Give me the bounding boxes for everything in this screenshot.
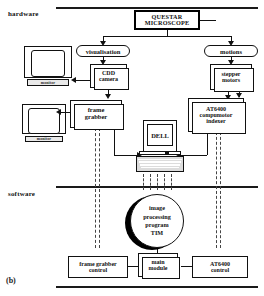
questar-line-2: MICROSCOPE [145, 19, 190, 26]
stepper-line-2: motors [222, 77, 240, 83]
link-main-at6400control [181, 266, 192, 267]
node-motions: motions [204, 45, 258, 57]
bus-framegrabber-control-b [99, 128, 100, 248]
cdd-line-1: CDD [102, 70, 115, 76]
bus-framegrabber-control-a [95, 128, 96, 248]
node-frame-grabber: frame grabber [70, 100, 122, 128]
top-divider-rule [56, 7, 258, 9]
module-at6400-control: AT6400 control [192, 256, 248, 278]
node-questar-microscope: QUESTAR MICROSCOPE [134, 10, 200, 30]
laptop-port-icon [165, 152, 169, 154]
questar-bus [103, 36, 231, 37]
monitor-label: monitor [27, 79, 69, 86]
program-line-2: processing [143, 213, 171, 220]
node-stepper-motors: stepper motors [210, 64, 252, 90]
at6400-line-3: indexer [206, 118, 225, 124]
main-line-2: module [148, 265, 167, 271]
node-image-processing-program: image processing program TIM [125, 196, 179, 250]
node-at6400-indexer: AT6400 compumotor indexer [188, 98, 244, 132]
questar-right-stub [200, 20, 216, 21]
panel-label: (b) [6, 276, 16, 285]
bus-dell-c [157, 174, 158, 190]
figure-diagram: hardware QUESTAR MICROSCOPE visualisatio… [0, 0, 264, 296]
cdd-line-2: camera [99, 76, 118, 82]
main-line-1: main [151, 259, 164, 265]
laptop-hinge [139, 151, 181, 155]
laptop-screen-label: DELL [147, 124, 173, 146]
section-label-software: software [8, 190, 35, 198]
program-line-3: program [145, 221, 168, 228]
framegrabber-to-monitor-line [60, 112, 70, 113]
monitor-label: monitor [25, 136, 64, 142]
module-main: main module [138, 253, 178, 277]
module-frame-grabber-control: frame grabber control [68, 256, 128, 278]
monitor-visualisation: monitor [24, 46, 72, 86]
at6400-control-line-2: control [211, 267, 229, 273]
program-line-4: TIM [151, 229, 163, 236]
monitor-screen [31, 50, 66, 77]
fg-control-line-2: control [89, 267, 107, 273]
circle-body: image processing program TIM [130, 194, 184, 248]
framegrabber-line-2: grabber [85, 113, 107, 120]
arrow-cdd-to-framegrabber [105, 94, 111, 99]
laptop-keyboard [136, 156, 184, 172]
bus-dell-e [171, 174, 172, 190]
stepper-line-1: stepper [222, 71, 241, 77]
framegrabber-down [114, 128, 115, 155]
fg-control-line-1: frame grabber [79, 261, 117, 267]
node-visualisation: visualisation [76, 45, 130, 57]
bus-at6400-control-b [220, 132, 221, 248]
bus-dell-a [143, 174, 144, 190]
cdd-to-monitor-line [76, 80, 90, 81]
at6400-line-1: AT6400 [206, 106, 226, 112]
node-cdd-camera: CDD camera [90, 64, 127, 88]
arrow-cdd-to-monitor [71, 77, 76, 83]
link-fgcontrol-main [128, 266, 138, 267]
bus-at6400-control-a [216, 132, 217, 248]
program-line-1: image [149, 204, 165, 211]
bottom-divider-rule [56, 286, 258, 288]
bus-dell-b [150, 174, 151, 190]
at6400-line-2: compumotor [200, 112, 233, 118]
at6400-control-line-1: AT6400 [210, 261, 230, 267]
bus-dell-d [164, 174, 165, 190]
arrow-framegrabber-to-monitor [56, 109, 61, 115]
node-dell-computer: DELL [135, 120, 185, 174]
section-label-hardware: hardware [8, 10, 39, 18]
at6400-down [207, 132, 208, 155]
